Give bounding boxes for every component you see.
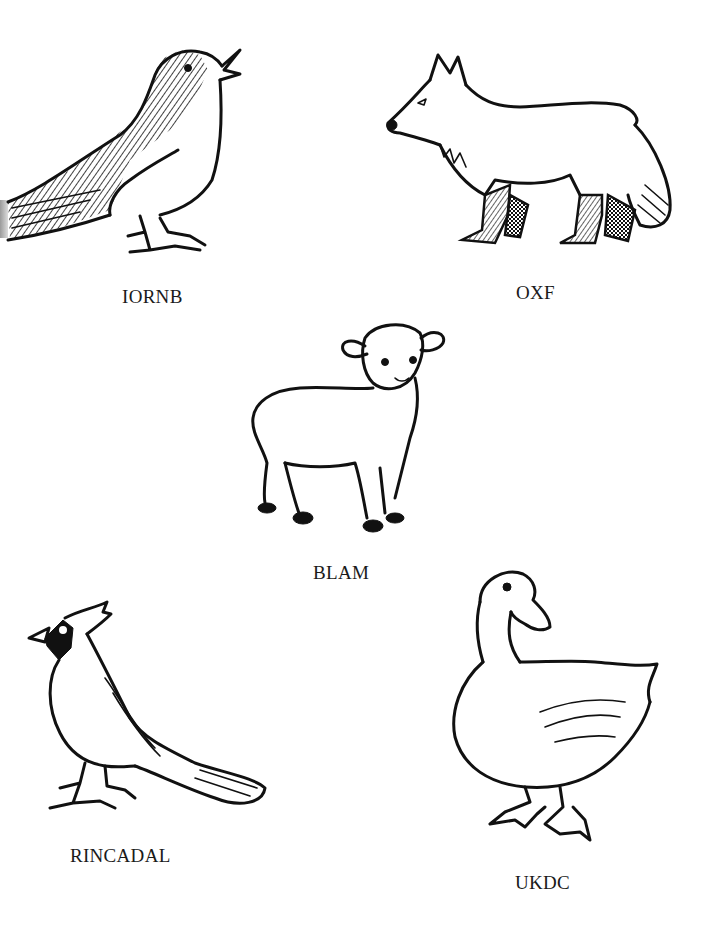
figure-fox (380, 45, 680, 260)
fox-icon (380, 45, 680, 260)
label-fox-scrambled: OXF (516, 282, 555, 304)
figure-bird (0, 40, 250, 270)
figure-lamb (245, 318, 450, 543)
label-cardinal-scrambled: RINCADAL (70, 845, 171, 867)
lamb-icon (245, 318, 450, 543)
figure-duck (445, 562, 665, 852)
songbird-icon (0, 40, 250, 270)
cardinal-icon (25, 598, 275, 828)
label-lamb-scrambled: BLAM (313, 562, 369, 584)
label-bird-scrambled: IORNB (122, 286, 183, 308)
duck-icon (445, 562, 665, 852)
label-duck-scrambled: UKDC (515, 872, 570, 894)
worksheet-page: IORNB (0, 0, 712, 925)
figure-cardinal (25, 598, 275, 828)
